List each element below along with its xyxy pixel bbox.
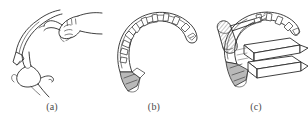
stacked-blocks bbox=[244, 38, 308, 78]
panel-c-artwork bbox=[204, 0, 308, 100]
shaded-tail-tab bbox=[120, 68, 145, 92]
upper-hand-gripping bbox=[39, 13, 102, 42]
panel-c-caption: (c) bbox=[204, 100, 308, 114]
panel-b-caption: (b) bbox=[104, 100, 204, 114]
panel-a-artwork bbox=[0, 0, 104, 100]
figure-root: (a) bbox=[0, 0, 308, 126]
panel-a-caption: (a) bbox=[0, 100, 104, 114]
figure-panel-b: (b) bbox=[104, 0, 204, 126]
figure-panel-a: (a) bbox=[0, 0, 104, 126]
figure-panel-c: (c) bbox=[204, 0, 308, 126]
curved-strip bbox=[16, 10, 62, 55]
panel-b-artwork bbox=[104, 0, 204, 100]
